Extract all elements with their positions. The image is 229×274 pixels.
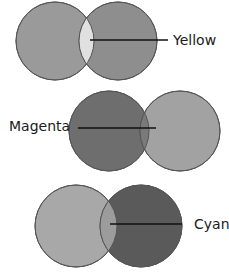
magenta-diagram (69, 91, 220, 171)
yellow-label: Yellow (172, 32, 216, 48)
cyan-label: Cyan (194, 216, 229, 232)
cyan-diagram (35, 185, 182, 267)
yellow-diagram (16, 2, 168, 80)
magenta-label: Magenta (9, 118, 70, 134)
venn-diagrams: Yellow Magenta Cyan (0, 0, 229, 274)
